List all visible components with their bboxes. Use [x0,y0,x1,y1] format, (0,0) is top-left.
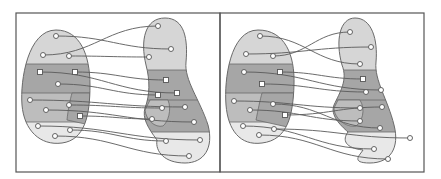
circle-node [369,45,374,50]
circle-node [244,52,249,57]
circle-node [358,119,363,124]
circle-node [198,138,203,143]
square-node [164,78,169,83]
square-node [78,114,83,119]
circle-node [44,108,49,113]
circle-node [242,70,247,75]
circle-node [41,53,46,58]
circle-node [156,24,161,29]
circle-node [372,147,377,152]
circle-node [257,133,262,138]
cluster-subregion [67,93,90,125]
circle-node [68,128,73,133]
square-node [38,70,43,75]
circle-node [241,124,246,129]
circle-node [364,90,369,95]
circle-node [272,127,277,132]
circle-node [164,139,169,144]
circle-node [28,98,33,103]
circle-node [380,105,385,110]
circle-node [36,124,41,129]
square-node [73,70,78,75]
circle-node [378,126,383,131]
circle-node [192,120,197,125]
square-node [361,77,366,82]
circle-node [358,106,363,111]
panels-root [0,13,441,172]
circle-node [379,88,384,93]
circle-node [271,102,276,107]
circle-node [147,55,152,60]
circle-node [183,105,188,110]
circle-node [348,30,353,35]
circle-node [56,82,61,87]
circle-node [258,34,263,39]
connection-edge [80,116,152,119]
circle-node [150,117,155,122]
circle-node [386,157,391,162]
figure [0,0,441,179]
circle-node [271,54,276,59]
circle-node [248,108,253,113]
circle-node [67,103,72,108]
square-node [175,91,180,96]
circle-node [187,154,192,159]
circle-node [358,62,363,67]
circle-node [54,34,59,39]
circle-node [169,47,174,52]
square-node [278,70,283,75]
circle-node [408,136,413,141]
circle-node [232,99,237,104]
circle-node [53,134,58,139]
circle-node [160,106,165,111]
square-node [260,82,265,87]
square-node [156,93,161,98]
circle-node [67,54,72,59]
square-node [283,113,288,118]
